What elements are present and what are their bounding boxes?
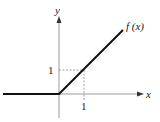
relu-diagram: y x f (x) 1 1: [0, 0, 160, 122]
y-axis-arrow-icon: [57, 16, 62, 23]
x-axis-arrow-icon: [137, 92, 144, 97]
x-axis-label: x: [145, 88, 151, 100]
function-curve: [3, 30, 123, 94]
y-tick-label: 1: [48, 64, 54, 76]
x-tick-label: 1: [81, 100, 87, 112]
function-label: f (x): [126, 20, 144, 33]
y-axis-label: y: [54, 4, 60, 16]
